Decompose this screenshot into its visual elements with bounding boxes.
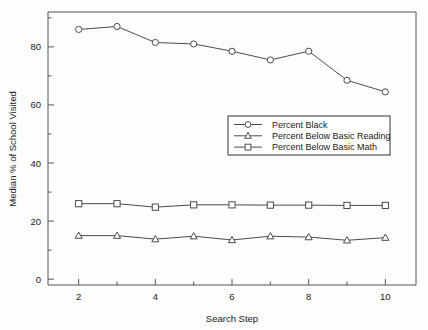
data-point bbox=[344, 202, 350, 208]
x-tick-labels: 246810 bbox=[76, 291, 391, 302]
chart-legend: Percent BlackPercent Below Basic Reading… bbox=[228, 116, 391, 155]
x-tick-label: 4 bbox=[153, 291, 158, 302]
data-point bbox=[76, 201, 82, 207]
y-tick-label: 80 bbox=[30, 41, 41, 52]
y-tick-label: 0 bbox=[36, 274, 41, 285]
series-3 bbox=[76, 201, 389, 211]
series-1 bbox=[76, 23, 389, 95]
data-point bbox=[191, 41, 197, 47]
x-tick-label: 2 bbox=[76, 291, 81, 302]
x-tick-label: 8 bbox=[306, 291, 311, 302]
data-point bbox=[229, 48, 235, 54]
data-point bbox=[306, 48, 312, 54]
data-point bbox=[191, 202, 197, 208]
chart-container: 246810 020406080 Percent BlackPercent Be… bbox=[0, 0, 428, 330]
x-tick-label: 10 bbox=[380, 291, 391, 302]
legend-marker-circle-icon bbox=[245, 122, 251, 128]
data-point bbox=[382, 234, 389, 240]
x-tick-label: 6 bbox=[229, 291, 234, 302]
data-point bbox=[267, 202, 273, 208]
data-point bbox=[114, 201, 120, 207]
legend-label: Percent Below Basic Reading bbox=[272, 131, 391, 141]
x-axis-title: Search Step bbox=[206, 313, 258, 324]
data-point bbox=[344, 77, 350, 83]
data-point bbox=[229, 202, 235, 208]
legend-marker-square-icon bbox=[245, 144, 251, 150]
data-point bbox=[152, 39, 158, 45]
legend-label: Percent Below Basic Math bbox=[272, 142, 377, 152]
line-chart: 246810 020406080 Percent BlackPercent Be… bbox=[0, 0, 428, 330]
y-tick-label: 60 bbox=[30, 99, 41, 110]
y-tick-label: 20 bbox=[30, 216, 41, 227]
legend-label: Percent Black bbox=[272, 120, 328, 130]
y-tick-label: 40 bbox=[30, 158, 41, 169]
y-axis-title: Median % of School Visited bbox=[7, 91, 18, 206]
y-tick-labels: 020406080 bbox=[30, 41, 41, 284]
data-point bbox=[152, 204, 158, 210]
data-point bbox=[267, 233, 274, 239]
data-point bbox=[76, 26, 82, 32]
data-point bbox=[382, 89, 388, 95]
data-point bbox=[190, 233, 197, 239]
data-point bbox=[267, 57, 273, 63]
data-point bbox=[382, 202, 388, 208]
data-point bbox=[114, 23, 120, 29]
series-2 bbox=[75, 232, 389, 243]
data-point bbox=[306, 202, 312, 208]
